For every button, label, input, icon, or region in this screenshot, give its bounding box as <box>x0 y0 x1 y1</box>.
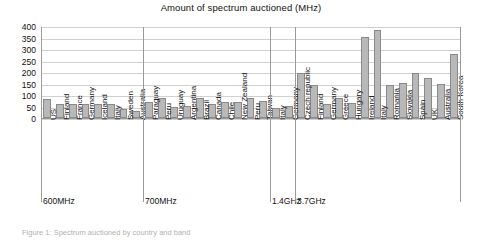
x-category-label: Italy <box>380 105 388 120</box>
band-separator <box>143 27 144 202</box>
x-category-label: Spain <box>419 100 427 120</box>
band-label: 700MHz <box>145 196 177 206</box>
y-tick-label: 200 <box>22 69 36 77</box>
spectrum-auction-bar-chart: Amount of spectrum auctioned (MHz) 40035… <box>0 0 482 241</box>
band-label: 3.7GHz <box>297 196 326 206</box>
band-separator <box>460 27 461 202</box>
y-tick-label: 150 <box>22 81 36 89</box>
x-category-label: Iceland <box>101 94 109 120</box>
x-category-label: Germany <box>88 87 96 120</box>
x-category-label: Australia <box>444 89 452 120</box>
x-category-label: New Zealand <box>241 73 249 120</box>
x-category-label: Ireland <box>368 96 376 120</box>
x-category-label: Uruguay <box>177 90 185 120</box>
x-category-label: Sweden <box>127 91 135 120</box>
x-axis-category-labels: USFinlandFranceGermanyIcelandItalySweden… <box>41 120 460 192</box>
x-category-label: UK <box>431 109 439 120</box>
x-category-label: France <box>76 95 84 120</box>
x-category-label: Italy <box>279 105 287 120</box>
x-category-label: Greece <box>342 94 350 120</box>
x-category-label: Italy <box>114 105 122 120</box>
band-label: 600MHz <box>43 196 75 206</box>
y-tick-label: 350 <box>22 35 36 43</box>
x-category-label: Germany <box>330 87 338 120</box>
figure-caption: Figure 1: Spectrum auctioned by country … <box>22 228 190 237</box>
x-category-label: Czech republic <box>304 67 312 120</box>
x-category-label: Peru <box>165 103 173 120</box>
y-tick-label: 250 <box>22 58 36 66</box>
band-separator <box>41 27 42 202</box>
x-category-label: Romania <box>393 88 401 120</box>
x-category-label: Brazil <box>203 100 211 120</box>
x-category-label: Argentina <box>190 86 198 120</box>
y-tick-label: 0 <box>31 115 36 123</box>
x-category-label: Finland <box>63 94 71 120</box>
x-category-label: Finland <box>317 94 325 120</box>
band-separator <box>295 27 296 202</box>
band-separator <box>270 27 271 202</box>
y-axis-tick-labels: 400350300250200150100500 <box>0 27 39 119</box>
y-tick-label: 100 <box>22 92 36 100</box>
x-category-label: Peru <box>254 103 262 120</box>
y-tick-label: 50 <box>27 104 36 112</box>
x-category-label: Slovakia <box>406 90 414 120</box>
y-tick-label: 300 <box>22 46 36 54</box>
x-category-label: US <box>50 109 58 120</box>
x-category-label: Paraguay <box>152 86 160 120</box>
x-category-label: Canada <box>215 92 223 120</box>
x-category-label: Chile <box>228 102 236 120</box>
x-category-label: Hungary <box>355 90 363 120</box>
y-tick-label: 400 <box>22 23 36 31</box>
chart-title: Amount of spectrum auctioned (MHz) <box>0 2 482 13</box>
